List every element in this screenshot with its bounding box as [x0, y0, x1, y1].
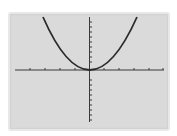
graph-canvas — [0, 0, 177, 136]
